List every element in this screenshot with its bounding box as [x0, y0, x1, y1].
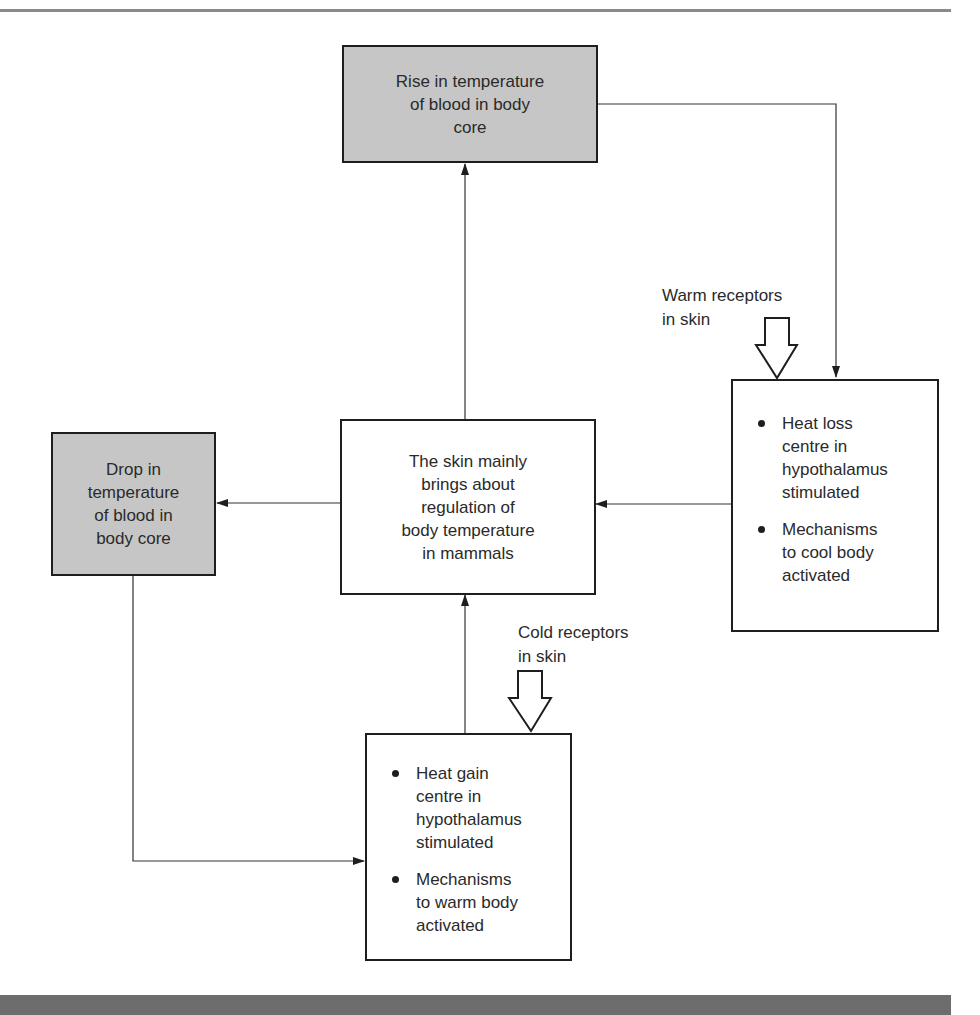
node-text: in mammals [422, 542, 514, 565]
bullet-list: Heat gain centre in hypothalamus stimula… [367, 762, 570, 937]
node-text: body temperature [401, 519, 534, 542]
node-drop-in-temperature: Drop in temperature of blood in body cor… [51, 432, 216, 576]
bullet-text: stimulated [416, 831, 570, 854]
node-text: of blood in [94, 504, 172, 527]
node-skin-regulation: The skin mainly brings about regulation … [340, 419, 596, 595]
node-heat-loss-centre: Heat loss centre in hypothalamus stimula… [731, 379, 939, 632]
label-text: in skin [662, 308, 782, 332]
bullet-text: centre in [416, 785, 570, 808]
cold-receptors-label: Cold receptors in skin [518, 621, 629, 669]
bullet-item: Heat gain centre in hypothalamus stimula… [367, 762, 570, 854]
bullet-text: to cool body [782, 541, 937, 564]
bullet-text: hypothalamus [416, 808, 570, 831]
bullet-text: centre in [782, 435, 937, 458]
node-text: Drop in [106, 458, 161, 481]
label-text: Cold receptors [518, 621, 629, 645]
bullet-text: Mechanisms [782, 518, 937, 541]
bottom-band [0, 995, 951, 1015]
bullet-text: hypothalamus [782, 458, 937, 481]
bullet-text: stimulated [782, 481, 937, 504]
bullet-text: Mechanisms [416, 868, 570, 891]
arrow-rise-to-heat-loss [597, 104, 836, 377]
node-text: core [453, 116, 486, 139]
bullet-item: Mechanisms to warm body activated [367, 868, 570, 937]
node-text: temperature [88, 481, 180, 504]
bullet-text: Heat loss [782, 412, 937, 435]
bullet-text: activated [782, 564, 937, 587]
bullet-text: activated [416, 914, 570, 937]
bullet-icon [392, 770, 399, 777]
node-text: The skin mainly [409, 450, 527, 473]
bullet-list: Heat loss centre in hypothalamus stimula… [733, 412, 937, 587]
node-text: regulation of [421, 496, 515, 519]
node-text: Rise in temperature [396, 70, 544, 93]
bullet-text: to warm body [416, 891, 570, 914]
cold-receptors-arrow-icon [509, 671, 551, 731]
bullet-text: Heat gain [416, 762, 570, 785]
bullet-icon [758, 526, 765, 533]
bullet-item: Heat loss centre in hypothalamus stimula… [733, 412, 937, 504]
warm-receptors-label: Warm receptors in skin [662, 284, 782, 332]
node-text: brings about [421, 473, 515, 496]
node-text: body core [96, 527, 171, 550]
label-text: in skin [518, 645, 629, 669]
node-rise-in-temperature: Rise in temperature of blood in body cor… [342, 45, 598, 163]
label-text: Warm receptors [662, 284, 782, 308]
bullet-icon [392, 876, 399, 883]
arrow-drop-to-heat-gain [133, 575, 364, 861]
bullet-item: Mechanisms to cool body activated [733, 518, 937, 587]
node-text: of blood in body [410, 93, 530, 116]
bullet-icon [758, 420, 765, 427]
node-heat-gain-centre: Heat gain centre in hypothalamus stimula… [365, 733, 572, 961]
